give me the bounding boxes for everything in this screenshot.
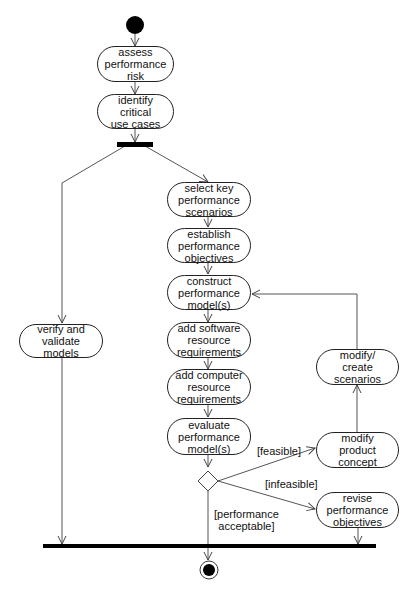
flow-fork-to-verify [62, 146, 125, 323]
activity-modify-product-concept: modify product concept [316, 432, 399, 468]
activity-modify-create-scenarios: modify/ create scenarios [316, 349, 399, 385]
activity-establish-objectives: establish performance objectives [167, 228, 251, 263]
activity-identify-critical-use-cases: identify critical use cases [97, 94, 174, 129]
decision-diamond [198, 471, 218, 491]
activity-add-computer-requirements: add computer resource requirements [167, 369, 251, 405]
fork-bar [117, 142, 153, 147]
final-node-dot [203, 564, 215, 576]
join-bar [43, 544, 376, 548]
activity-construct-models: construct performance model(s) [167, 275, 251, 310]
activity-select-key-scenarios: select key performance scenarios [167, 182, 251, 217]
activity-add-software-requirements: add software resource requirements [167, 322, 251, 358]
flow-fork-to-select [145, 146, 208, 182]
activity-revise-objectives: revise performance objectives [316, 492, 399, 528]
activity-evaluate-models: evaluate performance model(s) [167, 418, 251, 455]
guard-feasible: [feasible] [257, 445, 301, 457]
initial-node [126, 16, 144, 34]
activity-verify-validate-models: verify and validate models [19, 324, 103, 358]
guard-infeasible: [infeasible] [265, 478, 318, 490]
flow-scenarios-to-construct [252, 294, 357, 350]
activity-assess-performance-risk: assess performance risk [97, 46, 174, 82]
guard-performance-acceptable: [performance acceptable] [214, 508, 279, 532]
